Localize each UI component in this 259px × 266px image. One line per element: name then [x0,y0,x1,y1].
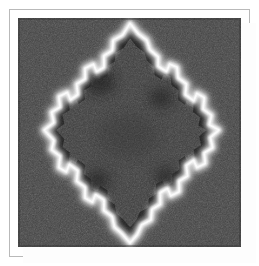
micrograph-panel [18,18,241,247]
micrograph-image [18,18,241,247]
image-grain-overlay [18,18,241,247]
figure-page [0,0,259,266]
